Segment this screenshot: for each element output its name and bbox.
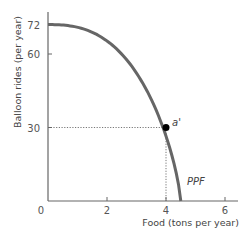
x-tick-label: 2 bbox=[104, 205, 110, 216]
y-axis-title: Balloon rides (per year) bbox=[12, 16, 23, 128]
point-a-prime-label: a' bbox=[172, 117, 181, 128]
y-tick-label: 30 bbox=[27, 123, 40, 134]
ppf-label: PPF bbox=[187, 176, 205, 187]
x-tick-label: 0 bbox=[38, 205, 44, 216]
x-axis-title: Food (tons per year) bbox=[142, 217, 239, 228]
ppf-curve bbox=[48, 25, 181, 201]
point-a-prime bbox=[163, 124, 170, 131]
x-tick-label: 6 bbox=[222, 205, 228, 216]
y-tick-label: 60 bbox=[27, 49, 40, 60]
x-tick-label: 4 bbox=[163, 205, 169, 216]
y-tick-label: 72 bbox=[27, 20, 40, 31]
guide-lines bbox=[48, 128, 166, 202]
ppf-chart: 0246306072 a' PPF Food (tons per year) B… bbox=[0, 0, 251, 236]
